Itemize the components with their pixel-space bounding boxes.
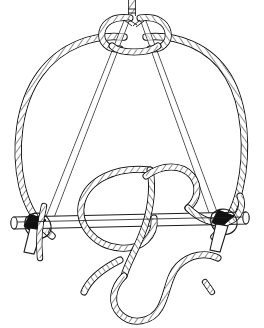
standing-rope-top xyxy=(128,0,136,16)
tripod-lashing-knot-diagram: Rope lashing on crossed poles xyxy=(0,0,264,328)
figure-page: any resources. Rope lashing on crossed p… xyxy=(0,0,264,328)
